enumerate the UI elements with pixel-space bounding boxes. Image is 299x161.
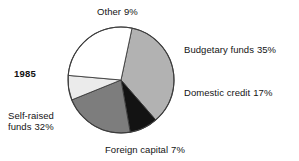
pie-label-budgetary-funds-percent: 35% xyxy=(257,44,276,55)
pie-label-domestic-credit-text: Domestic credit xyxy=(184,87,250,98)
pie-label-budgetary-funds-text: Budgetary funds xyxy=(184,44,254,55)
pie-label-budgetary-funds: Budgetary funds35% xyxy=(184,44,276,55)
pie-label-foreign-capital-percent: 7% xyxy=(171,144,185,155)
pie-label-other-text: Other xyxy=(97,6,121,17)
pie-chart-figure: Other9% Budgetary funds35% Domestic cred… xyxy=(0,0,299,161)
pie-slice-other xyxy=(68,27,132,80)
pie-chart-graphic xyxy=(0,0,299,161)
pie-label-domestic-credit-percent: 17% xyxy=(253,87,272,98)
pie-label-foreign-capital: Foreign capital7% xyxy=(105,144,185,155)
pie-label-self-raised-funds: Self-raised funds32% xyxy=(8,110,80,132)
pie-label-other-percent: 9% xyxy=(124,6,138,17)
pie-label-foreign-capital-text: Foreign capital xyxy=(105,144,168,155)
chart-year-label: 1985 xyxy=(14,68,36,79)
pie-label-domestic-credit: Domestic credit17% xyxy=(184,87,272,98)
pie-label-self-raised-funds-text2: funds xyxy=(8,121,32,132)
pie-label-other: Other9% xyxy=(97,6,138,17)
pie-label-self-raised-funds-text: Self-raised xyxy=(8,110,54,121)
pie-label-self-raised-funds-percent: 32% xyxy=(35,121,54,132)
